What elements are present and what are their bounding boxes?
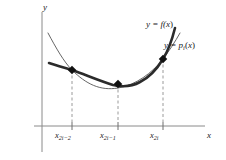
tick-label-x2i: x2i: [150, 131, 159, 141]
simpsons-rule-figure: y x y = f(x) y = pi(x) x2i−2 x2i−1 x2i: [0, 0, 226, 160]
tick-label-x2i-2-sub: 2i−2: [59, 135, 71, 141]
y-axis-label: y: [43, 3, 47, 12]
tick-label-x2i-sub: 2i: [154, 135, 159, 141]
tick-label-x2i-2: x2i−2: [55, 131, 71, 141]
f-curve-label: y = f(x): [146, 20, 173, 29]
f-curve-label-close: ): [170, 19, 173, 29]
p-curve-label: y = pi(x): [164, 41, 195, 51]
tick-label-x2i-1-sub: 2i−1: [104, 135, 116, 141]
f-curve-path: [49, 28, 175, 86]
p-curve-label-paren-close: ): [192, 40, 195, 50]
p-curve-label-text: y = p: [164, 40, 183, 50]
f-curve-label-text: y = f(: [146, 19, 166, 29]
x-axis-label: x: [207, 131, 211, 140]
tick-label-x2i-1: x2i−1: [100, 131, 116, 141]
p-curve-path: [48, 33, 180, 89]
